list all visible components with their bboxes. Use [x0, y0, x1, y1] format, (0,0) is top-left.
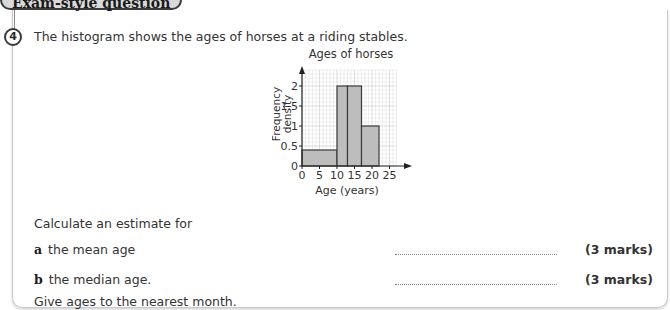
histogram-bar — [337, 86, 348, 166]
part-a-answer-line[interactable] — [395, 254, 557, 255]
part-a: athe mean age — [34, 242, 135, 257]
question-number-badge: 4 — [4, 28, 22, 46]
svg-text:0: 0 — [299, 169, 306, 182]
part-a-text: the mean age — [48, 242, 135, 257]
part-b: bthe median age. — [34, 272, 151, 287]
part-b-marks: (3 marks) — [585, 272, 653, 287]
instruction: Give ages to the nearest month. — [34, 294, 237, 309]
svg-text:0: 0 — [291, 160, 298, 173]
question-prompt: Calculate an estimate for — [34, 216, 192, 231]
x-axis-label: Age (years) — [315, 184, 379, 197]
svg-text:2: 2 — [291, 80, 298, 93]
histogram-chart: Ages of horses 00.511.52 0510152025 Age … — [272, 44, 412, 214]
svg-text:10: 10 — [330, 169, 344, 182]
histogram-bar — [348, 86, 362, 166]
part-a-marks: (3 marks) — [585, 242, 653, 257]
y-axis-label-line2: density — [281, 95, 293, 134]
svg-text:0.5: 0.5 — [281, 140, 299, 153]
section-header: Exam-style question — [0, 0, 182, 10]
histogram-bar — [302, 150, 337, 166]
part-b-text: the median age. — [49, 272, 152, 287]
x-axis-arrow-icon — [404, 163, 412, 169]
part-b-letter: b — [34, 272, 43, 287]
question-intro: The histogram shows the ages of horses a… — [34, 29, 408, 44]
svg-text:15: 15 — [348, 169, 362, 182]
histogram-bar — [362, 126, 380, 166]
svg-text:20: 20 — [365, 169, 379, 182]
part-a-letter: a — [34, 242, 42, 257]
part-b-answer-line[interactable] — [395, 284, 557, 285]
svg-text:5: 5 — [316, 169, 323, 182]
x-axis-ticks: 0510152025 — [299, 166, 397, 182]
chart-title: Ages of horses — [309, 47, 394, 61]
svg-text:25: 25 — [383, 169, 397, 182]
